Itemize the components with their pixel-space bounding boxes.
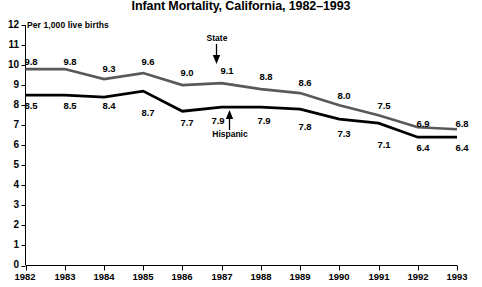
data-label-state-1991: 7.5	[369, 101, 399, 111]
data-label-hispanic-1993: 6.4	[447, 143, 477, 153]
data-label-state-1983: 9.8	[55, 57, 85, 67]
data-label-hispanic-1988: 7.9	[249, 116, 279, 126]
data-label-state-1986: 9.0	[172, 68, 202, 78]
data-label-hispanic-1986: 7.7	[172, 118, 202, 128]
data-label-hispanic-1992: 6.4	[408, 143, 438, 153]
state-annotation-arrow-icon	[213, 44, 220, 64]
data-label-hispanic-1982: 8.5	[16, 101, 46, 111]
series-line-state	[26, 69, 458, 129]
data-label-hispanic-1984: 8.4	[94, 101, 124, 111]
data-label-state-1982: 9.8	[16, 57, 46, 67]
data-label-hispanic-1983: 8.5	[55, 101, 85, 111]
data-label-hispanic-1987: 7.9	[203, 116, 233, 126]
data-label-hispanic-1990: 7.3	[329, 129, 359, 139]
data-label-state-1988: 8.8	[251, 72, 281, 82]
data-label-hispanic-1991: 7.1	[369, 140, 399, 150]
data-label-state-1990: 8.0	[329, 91, 359, 101]
data-label-state-1984: 9.3	[94, 64, 124, 74]
data-label-hispanic-1989: 7.8	[290, 122, 320, 132]
x-axis-ticks	[27, 266, 458, 271]
data-label-state-1989: 8.6	[290, 78, 320, 88]
data-label-hispanic-1985: 8.7	[133, 108, 163, 118]
data-label-state-1993: 6.8	[447, 119, 477, 129]
data-label-state-1987: 9.1	[212, 66, 242, 76]
data-label-state-1985: 9.6	[133, 57, 163, 67]
chart-figure: Infant Mortality, California, 1982–1993 …	[0, 0, 482, 287]
annotation-label-state: State	[187, 34, 247, 43]
annotation-label-hispanic: Hispanic	[200, 130, 260, 139]
data-label-state-1992: 6.9	[408, 119, 438, 129]
